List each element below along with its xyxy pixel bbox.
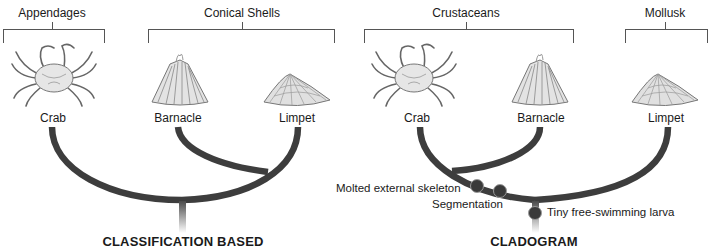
trunk-classification [179,201,186,233]
classification-tree [52,127,298,200]
branch-limpet [182,127,298,200]
panel-title-cladogram: CLADOGRAM [490,234,578,249]
trait-label-larva: Tiny free-swimming larva [547,206,674,218]
branch-barnacle [178,127,268,172]
trait-label-molted-skeleton: Molted external skeleton [336,182,461,194]
branch-barnacle [452,127,540,171]
node-larva [529,207,542,220]
branch-limpet [535,127,668,200]
branch-crab [52,127,182,200]
panel-title-classification: CLASSIFICATION BASED [102,234,263,249]
node-segmentation [494,185,507,198]
trait-label-segmentation: Segmentation [432,198,503,210]
node-molted-skeleton [471,180,484,193]
